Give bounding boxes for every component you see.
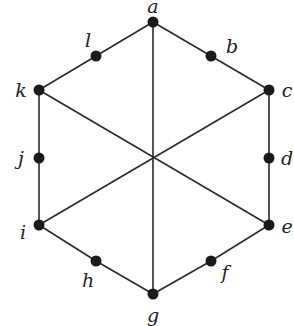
node-i: [34, 220, 45, 231]
node-b: [206, 51, 217, 62]
node-label-c: c: [282, 81, 293, 100]
node-label-g: g: [147, 306, 159, 325]
edge-b-c: [211, 56, 269, 90]
node-d: [264, 153, 275, 164]
node-label-j: j: [18, 149, 24, 168]
node-label-i: i: [20, 223, 26, 242]
edge-f-g: [153, 261, 211, 294]
edge-l-a: [96, 22, 153, 56]
node-label-a: a: [147, 0, 158, 16]
node-label-b: b: [226, 37, 238, 56]
node-e: [264, 220, 275, 231]
graph-canvas: [0, 0, 294, 326]
node-l: [91, 51, 102, 62]
node-j: [34, 153, 45, 164]
graph-diagram: abcdefghijkl: [0, 0, 294, 326]
node-g: [148, 289, 159, 300]
node-a: [148, 17, 159, 28]
edge-g-h: [96, 261, 153, 294]
edge-e-f: [211, 225, 269, 261]
node-label-d: d: [281, 149, 293, 168]
node-label-f: f: [221, 263, 228, 282]
edge-k-l: [39, 56, 96, 90]
node-h: [91, 256, 102, 267]
node-label-e: e: [281, 217, 292, 236]
node-k: [34, 85, 45, 96]
edge-a-b: [153, 22, 211, 56]
edge-h-i: [39, 225, 96, 261]
node-label-k: k: [15, 81, 27, 100]
node-c: [264, 85, 275, 96]
node-f: [206, 256, 217, 267]
node-label-l: l: [85, 31, 91, 50]
node-label-h: h: [82, 271, 94, 290]
